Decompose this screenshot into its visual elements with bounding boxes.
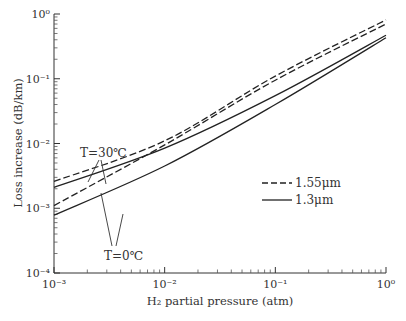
y-tick-label: 10⁻¹ xyxy=(26,73,50,86)
chart-canvas: 10⁻⁴10⁻³10⁻²10⁻¹10⁰10⁻³10⁻²10⁻¹10⁰ 1.55μ… xyxy=(0,0,406,321)
legend-dashed-label: 1.55μm xyxy=(295,176,342,190)
x-tick-label: 10⁻³ xyxy=(42,278,66,291)
y-axis-label: Loss increase (dB/km) xyxy=(11,78,25,208)
x-tick-label: 10⁰ xyxy=(377,278,396,291)
x-tick-label: 10⁻¹ xyxy=(263,278,287,291)
y-tick-label: 10⁻² xyxy=(26,138,50,151)
annotation-t0: T=0℃ xyxy=(104,249,143,263)
legend: 1.55μm 1.3μm xyxy=(262,176,342,207)
x-axis-label: H₂ partial pressure (atm) xyxy=(147,294,294,308)
annotations xyxy=(88,160,123,246)
annotation-t30: T=30℃ xyxy=(80,146,127,160)
legend-solid-label: 1.3μm xyxy=(295,193,334,207)
loss-vs-pressure-chart: 10⁻⁴10⁻³10⁻²10⁻¹10⁰10⁻³10⁻²10⁻¹10⁰ 1.55μ… xyxy=(0,0,406,321)
y-tick-label: 10⁰ xyxy=(32,8,51,21)
y-tick-label: 10⁻³ xyxy=(26,202,50,215)
x-tick-label: 10⁻² xyxy=(153,278,177,291)
